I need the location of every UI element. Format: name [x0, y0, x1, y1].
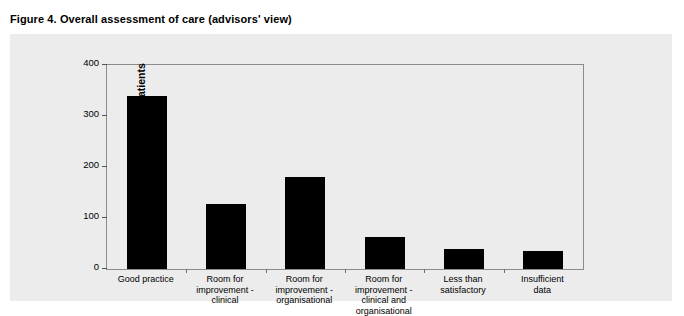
y-axis-tick: 100	[73, 217, 107, 218]
plot-area: Number of patients 0100200300400	[106, 64, 584, 270]
y-axis-tick: 0	[73, 268, 107, 269]
x-axis-tick-mark	[424, 269, 425, 273]
y-axis-tick-mark	[102, 217, 107, 218]
y-axis-tick-label: 100	[83, 210, 99, 221]
chart-panel: Number of patients 0100200300400 Good pr…	[10, 34, 672, 301]
x-axis-category-label: Good practice	[106, 274, 185, 285]
y-axis-tick: 400	[73, 64, 107, 65]
x-axis-category-label: Room for improvement - organisational	[265, 274, 344, 306]
y-axis-tick-mark	[102, 268, 107, 269]
x-axis-tick-mark	[345, 269, 346, 273]
bar	[365, 237, 405, 269]
bar	[523, 251, 563, 269]
y-axis-tick-mark	[102, 166, 107, 167]
x-axis-tick-mark	[186, 269, 187, 273]
y-axis-tick-label: 200	[83, 159, 99, 170]
x-axis-category-label: Room for improvement - clinical and orga…	[344, 274, 423, 316]
plot-inner: Number of patients 0100200300400	[107, 65, 583, 269]
y-axis-tick-label: 400	[83, 57, 99, 68]
x-axis-category-label: Insufficient data	[503, 274, 582, 295]
bar	[444, 249, 484, 269]
bar	[127, 96, 167, 269]
x-axis-tick-mark	[266, 269, 267, 273]
figure-caption: Figure 4. Overall assessment of care (ad…	[10, 13, 292, 25]
bar	[206, 204, 246, 269]
bar	[285, 177, 325, 269]
y-axis-tick-label: 300	[83, 108, 99, 119]
y-axis-tick: 300	[73, 115, 107, 116]
y-axis-tick-mark	[102, 115, 107, 116]
x-axis-category-label: Room for improvement - clinical	[185, 274, 264, 306]
y-axis-tick: 200	[73, 166, 107, 167]
x-axis-tick-mark	[504, 269, 505, 273]
x-axis-category-label: Less than satisfactory	[423, 274, 502, 295]
y-axis-tick-mark	[102, 64, 107, 65]
y-axis-tick-label: 0	[94, 261, 99, 272]
